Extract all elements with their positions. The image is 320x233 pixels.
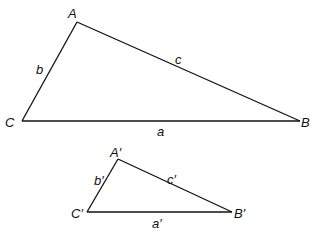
side-b-label: b [36,62,43,77]
side-b-prime-label: b′ [94,173,104,188]
vertex-a-label: A [67,6,77,21]
side-a-label: a [157,124,164,139]
side-c-prime-label: c′ [167,172,177,187]
side-c-label: c [175,52,182,67]
vertex-c-label: C [5,115,15,130]
side-c-line [77,22,300,121]
vertex-b-label: B [301,115,310,130]
vertex-b-prime-label: B′ [234,206,246,221]
vertex-a-prime-label: A′ [109,145,122,160]
similar-triangles-diagram: A B C b c a A′ B′ C′ b′ c′ a′ [0,0,320,233]
vertex-c-prime-label: C′ [71,206,83,221]
side-b-line [22,22,77,121]
large-triangle: A B C b c a [5,6,310,139]
side-a-prime-label: a′ [152,216,162,231]
small-triangle: A′ B′ C′ b′ c′ a′ [71,145,246,231]
